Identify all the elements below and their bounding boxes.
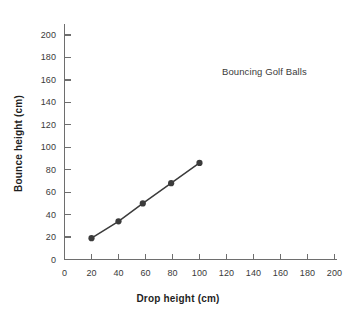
x-tick-label: 180 bbox=[300, 268, 315, 278]
x-tick-label: 60 bbox=[140, 268, 150, 278]
y-tick-label: 200 bbox=[14, 30, 56, 40]
x-tick-label: 20 bbox=[86, 268, 96, 278]
y-tick-label: 0 bbox=[14, 255, 56, 265]
axes bbox=[65, 24, 337, 260]
x-tick-label: 120 bbox=[219, 268, 234, 278]
x-tick-label: 200 bbox=[327, 268, 342, 278]
data-point-marker bbox=[140, 200, 146, 206]
y-tick-label: 20 bbox=[14, 232, 56, 242]
data-point-marker bbox=[88, 235, 94, 241]
chart-figure: 020406080100120140160180200 020406080100… bbox=[0, 0, 356, 323]
x-tick-label: 0 bbox=[62, 268, 67, 278]
series-line bbox=[92, 163, 200, 238]
y-tick-label: 180 bbox=[14, 52, 56, 62]
x-tick-label: 140 bbox=[246, 268, 261, 278]
x-axis-title: Drop height (cm) bbox=[0, 293, 356, 304]
data-point-marker bbox=[168, 180, 174, 186]
x-tick-label: 40 bbox=[113, 268, 123, 278]
y-axis-title: Bounce height (cm) bbox=[13, 64, 24, 224]
x-tick-label: 160 bbox=[273, 268, 288, 278]
chart-title: Bouncing Golf Balls bbox=[222, 66, 307, 77]
x-tick-label: 100 bbox=[192, 268, 207, 278]
data-point-marker bbox=[196, 160, 202, 166]
x-tick-label: 80 bbox=[167, 268, 177, 278]
data-point-marker bbox=[115, 218, 121, 224]
data-series bbox=[88, 160, 202, 241]
